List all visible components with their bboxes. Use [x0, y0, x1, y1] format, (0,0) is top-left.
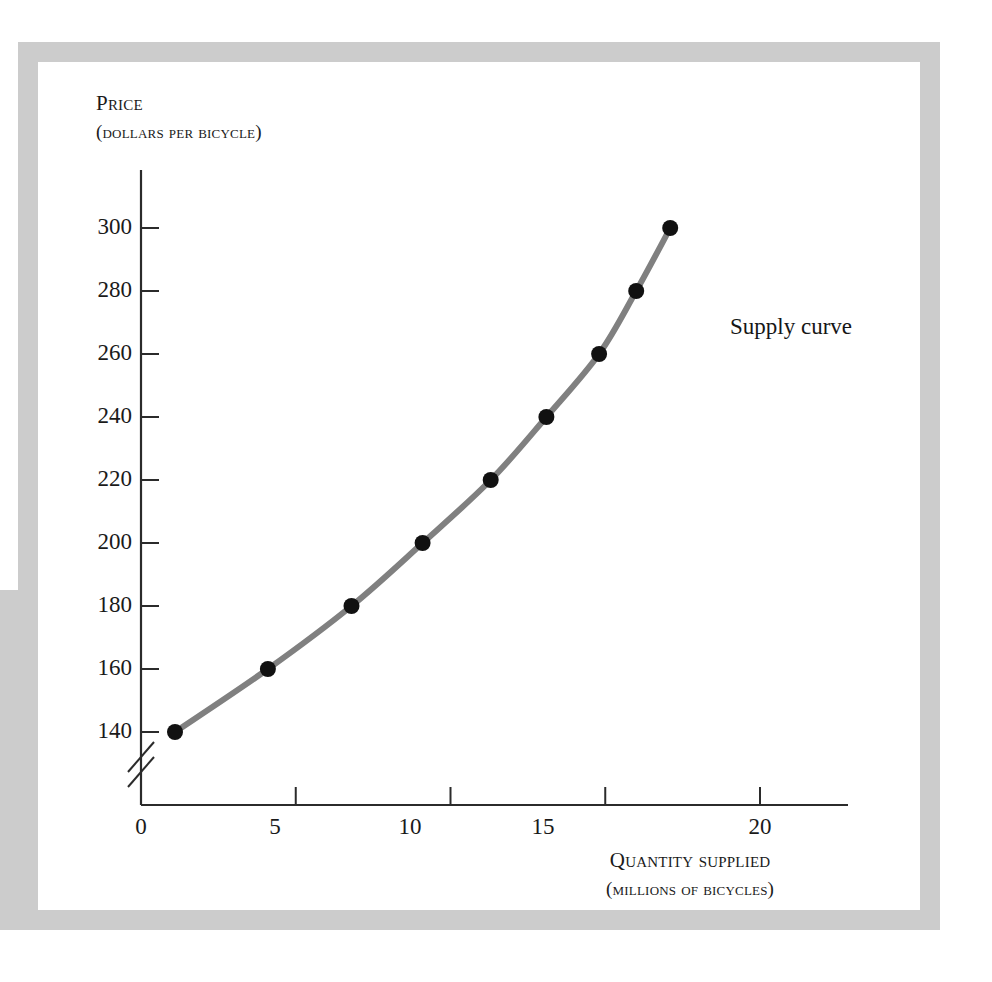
- data-point: [628, 283, 644, 299]
- x-axis-ticks: [141, 787, 760, 805]
- y-tick-label-180: 180: [78, 592, 132, 618]
- y-axis-ticks: [141, 228, 159, 732]
- y-tick-label-240: 240: [78, 403, 132, 429]
- data-point: [662, 220, 678, 236]
- data-point: [260, 661, 276, 677]
- x-axis-title-line1: Quantity supplied: [610, 848, 770, 872]
- x-tick-label-10: 10: [390, 814, 430, 840]
- y-tick-label-160: 160: [78, 655, 132, 681]
- data-point: [167, 724, 183, 740]
- y-tick-label-280: 280: [78, 277, 132, 303]
- figure-page: 300 280 260 240 220 200 180 160 140 0 5 …: [0, 0, 992, 982]
- y-axis-title-line1: Price: [96, 91, 143, 115]
- supply-curve-line: [175, 228, 670, 732]
- x-axis-title: Quantity supplied (millions of bicycles): [606, 845, 774, 903]
- data-point: [591, 346, 607, 362]
- x-tick-label-0: 0: [121, 814, 161, 840]
- plot-area: [38, 62, 920, 910]
- data-point: [483, 472, 499, 488]
- page-frame-side-tab: [0, 590, 22, 930]
- data-point-markers: [167, 220, 678, 740]
- y-axis-title: Price (dollars per bicycle): [96, 88, 262, 146]
- y-axis-title-line2: (dollars per bicycle): [96, 118, 262, 146]
- data-point: [538, 409, 554, 425]
- y-tick-label-140: 140: [78, 718, 132, 744]
- x-tick-label-20: 20: [740, 814, 780, 840]
- x-axis-title-line2: (millions of bicycles): [606, 875, 774, 903]
- page-frame-top: [18, 42, 940, 62]
- x-tick-label-15: 15: [523, 814, 563, 840]
- data-point: [415, 535, 431, 551]
- supply-curve-chart: 300 280 260 240 220 200 180 160 140 0 5 …: [38, 62, 920, 910]
- y-tick-label-220: 220: [78, 466, 132, 492]
- y-tick-label-260: 260: [78, 340, 132, 366]
- x-tick-label-5: 5: [255, 814, 295, 840]
- page-frame-bottom: [18, 910, 940, 930]
- y-tick-label-300: 300: [78, 214, 132, 240]
- supply-curve-annotation: Supply curve: [730, 314, 852, 340]
- data-point: [344, 598, 360, 614]
- y-tick-label-200: 200: [78, 529, 132, 555]
- page-frame-right: [920, 42, 940, 930]
